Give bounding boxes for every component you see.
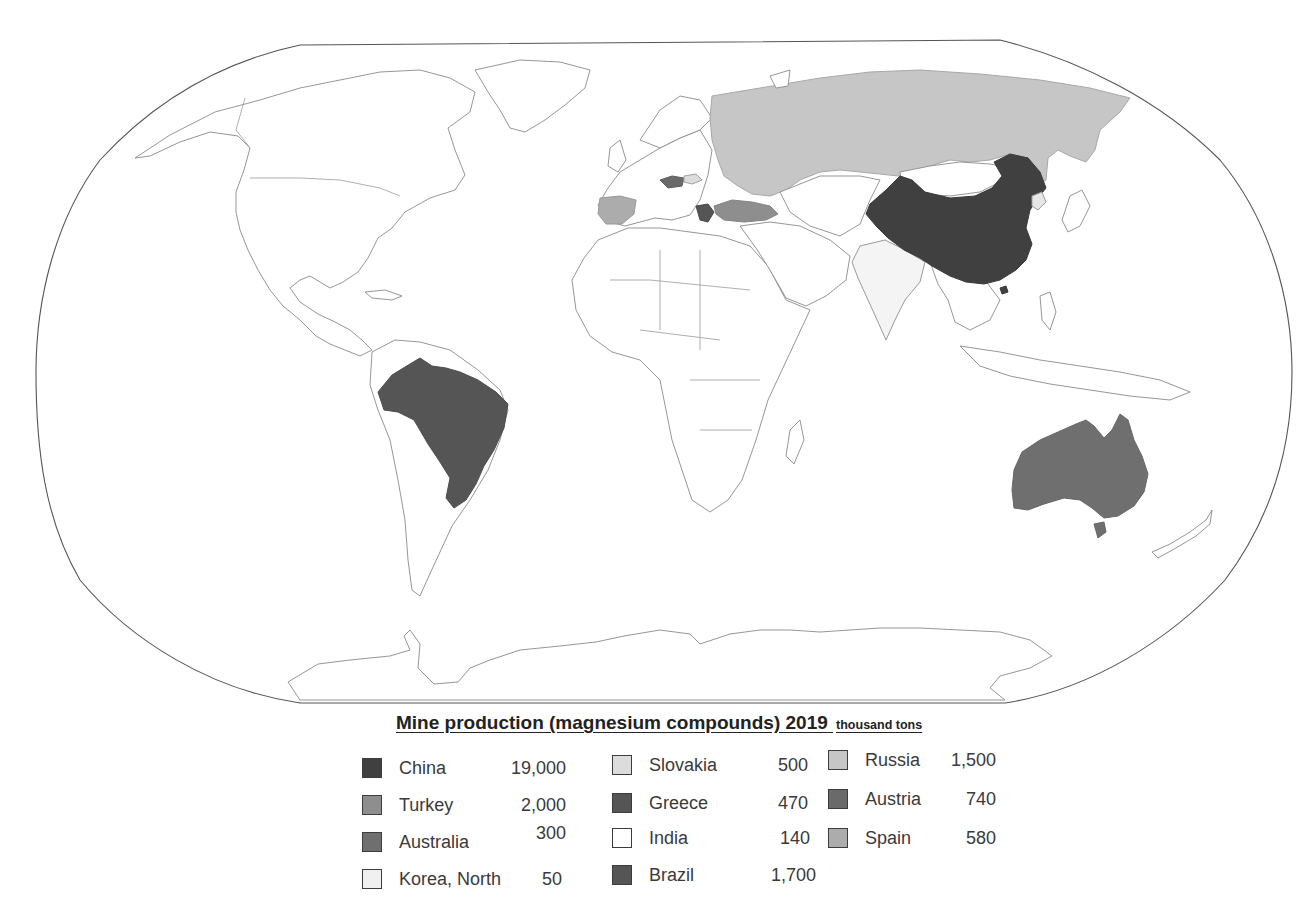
legend-name: Greece	[649, 793, 708, 814]
legend-title-text: Mine production (magnesium compounds) 20…	[396, 712, 828, 733]
legend-value: 50	[474, 869, 562, 890]
legend-value: 140	[732, 828, 810, 849]
legend-item-brazil: Brazil 1,700	[612, 862, 694, 888]
legend-item-india: India 140	[612, 825, 688, 851]
legend-swatch	[362, 832, 382, 852]
legend-swatch	[828, 789, 848, 809]
legend-value: 1,500	[930, 750, 996, 771]
legend-name: Austria	[865, 789, 921, 810]
legend-name: Russia	[865, 750, 920, 771]
legend-value: 300	[474, 823, 566, 844]
legend-value: 19,000	[474, 758, 566, 779]
legend-unit: thousand tons	[836, 718, 922, 732]
legend-swatch	[828, 828, 848, 848]
legend-value: 2,000	[474, 795, 566, 816]
legend-name: Spain	[865, 828, 911, 849]
legend-value: 500	[732, 755, 808, 776]
legend-swatch	[612, 865, 632, 885]
legend-value: 740	[930, 789, 996, 810]
legend-name: Slovakia	[649, 755, 717, 776]
legend-name: India	[649, 828, 688, 849]
legend-item-turkey: Turkey 2,000	[362, 792, 453, 818]
legend-swatch	[362, 795, 382, 815]
legend-item-slovakia: Slovakia 500	[612, 752, 717, 778]
legend-name: Turkey	[399, 795, 453, 816]
legend: Mine production (magnesium compounds) 20…	[352, 712, 1012, 902]
legend-swatch	[362, 758, 382, 778]
legend-item-austria: Austria 740	[828, 786, 921, 812]
legend-item-russia: Russia 1,500	[828, 747, 920, 773]
legend-item-greece: Greece 470	[612, 790, 708, 816]
legend-swatch	[612, 793, 632, 813]
legend-value: 470	[732, 793, 808, 814]
legend-item-korea-north: Korea, North 50	[362, 866, 501, 892]
legend-name: Brazil	[649, 865, 694, 886]
legend-swatch	[612, 755, 632, 775]
legend-item-australia: Australia 300	[362, 829, 469, 855]
legend-name: Australia	[399, 832, 469, 853]
legend-value: 1,700	[732, 865, 816, 886]
hainan	[1000, 286, 1008, 294]
legend-swatch	[828, 750, 848, 770]
legend-item-china: China 19,000	[362, 755, 446, 781]
legend-swatch	[612, 828, 632, 848]
legend-item-spain: Spain 580	[828, 825, 911, 851]
legend-name: China	[399, 758, 446, 779]
legend-value: 580	[930, 828, 996, 849]
legend-swatch	[362, 869, 382, 889]
legend-title: Mine production (magnesium compounds) 20…	[396, 712, 922, 734]
